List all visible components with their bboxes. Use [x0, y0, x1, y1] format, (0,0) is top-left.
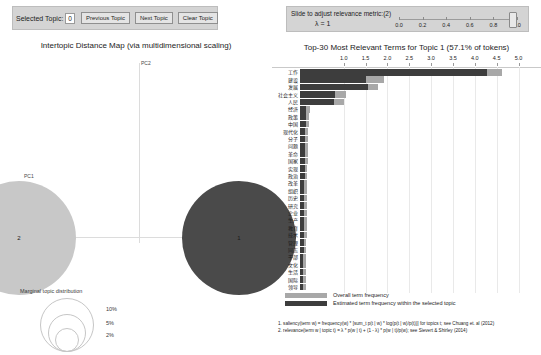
- bar-topic-frequency: [300, 128, 305, 135]
- bar-x-axis-ticks: 1.01.52.02.53.03.54.04.55.0: [272, 55, 541, 67]
- bar-term-label[interactable]: 国家: [288, 157, 300, 164]
- bar-topic-frequency: [300, 121, 306, 128]
- bar-term-label[interactable]: 文化: [288, 261, 300, 268]
- topic-circle-label-1: 1: [237, 235, 240, 241]
- bar-row[interactable]: 人民: [300, 99, 536, 106]
- bar-chart-legend: Overall term frequencyEstimated term fre…: [285, 292, 535, 308]
- bar-term-label[interactable]: 研究: [288, 202, 300, 209]
- bar-row[interactable]: 同志: [300, 247, 536, 254]
- bar-row[interactable]: 历史: [300, 195, 536, 202]
- bar-row[interactable]: 文化: [300, 261, 536, 268]
- bar-row[interactable]: 管理: [300, 239, 536, 246]
- footnote-relevance: 2. relevance(term w | topic t) = λ * p(w…: [278, 327, 540, 334]
- bar-x-tick-label: 4.5: [493, 55, 501, 61]
- bar-term-label[interactable]: 管理: [288, 239, 300, 246]
- bar-term-label[interactable]: 国际: [288, 276, 300, 283]
- bar-term-label[interactable]: 生产: [288, 216, 300, 223]
- bar-topic-frequency: [300, 217, 304, 224]
- bar-row[interactable]: 生活: [300, 269, 536, 276]
- bar-row[interactable]: 改革: [300, 180, 536, 187]
- bar-topic-frequency: [300, 210, 304, 217]
- footnote-saliency: 1. saliency(term w) = frequency(w) * [su…: [278, 320, 540, 327]
- mds-pc1-label: PC1: [24, 173, 34, 179]
- bar-topic-frequency: [300, 69, 487, 76]
- bar-term-label[interactable]: 分子: [288, 135, 300, 142]
- bar-row[interactable]: 国际: [300, 276, 536, 283]
- bar-row[interactable]: 中国: [300, 121, 536, 128]
- bar-row[interactable]: 企业: [300, 210, 536, 217]
- slider-tick-label: 0.2: [419, 22, 427, 28]
- bar-row[interactable]: 革命: [300, 150, 536, 157]
- bar-term-label[interactable]: 中国: [288, 120, 300, 127]
- marginal-circle-label: 10%: [106, 306, 117, 312]
- clear-topic-button[interactable]: Clear Topic: [178, 12, 218, 24]
- bar-term-label[interactable]: 历史: [288, 194, 300, 201]
- slider-tick-label: 0.6: [466, 22, 474, 28]
- bar-term-label[interactable]: 领导: [288, 283, 300, 290]
- bar-x-tick-label: 3.5: [449, 55, 457, 61]
- bar-term-label[interactable]: 经济: [288, 105, 300, 112]
- topic-circle-2[interactable]: [0, 181, 76, 295]
- bar-topic-frequency: [300, 224, 304, 231]
- bar-term-label[interactable]: 政治: [288, 172, 300, 179]
- slider-tick: [493, 17, 494, 20]
- bar-topic-frequency: [300, 99, 334, 106]
- bar-term-label[interactable]: 现代化: [283, 128, 300, 135]
- bar-topic-frequency: [300, 195, 304, 202]
- bar-row[interactable]: 建设: [300, 76, 536, 83]
- bar-row[interactable]: 经济: [300, 106, 536, 113]
- bar-term-label[interactable]: 干部: [288, 253, 300, 260]
- next-topic-button[interactable]: Next Topic: [135, 12, 173, 24]
- bar-topic-frequency: [300, 84, 368, 91]
- bar-term-label[interactable]: 实现: [288, 165, 300, 172]
- bar-term-label[interactable]: 革命: [288, 150, 300, 157]
- bar-term-label[interactable]: 技术: [288, 231, 300, 238]
- bar-term-label[interactable]: 工作: [288, 68, 300, 75]
- marginal-legend-title: Marginal topic distribution: [20, 288, 82, 294]
- bar-term-label[interactable]: 发展: [288, 83, 300, 90]
- bar-row[interactable]: 生产: [300, 217, 536, 224]
- bar-term-label[interactable]: 政策: [288, 113, 300, 120]
- bar-topic-frequency: [300, 187, 304, 194]
- bar-row[interactable]: 分子: [300, 136, 536, 143]
- bar-term-label[interactable]: 同志: [288, 246, 300, 253]
- slider-handle[interactable]: [509, 12, 517, 28]
- bar-row[interactable]: 问题: [300, 143, 536, 150]
- bar-row[interactable]: 领导: [300, 284, 536, 291]
- bar-row[interactable]: 组织: [300, 187, 536, 194]
- bar-topic-frequency: [300, 254, 303, 261]
- bar-row[interactable]: 教育: [300, 224, 536, 231]
- bar-row[interactable]: 社会主义: [300, 91, 536, 98]
- legend-row: Overall term frequency: [285, 292, 535, 298]
- bar-row[interactable]: 政策: [300, 113, 536, 120]
- slider-tick-label: 0.0: [395, 22, 403, 28]
- bar-row[interactable]: 工作: [300, 69, 536, 76]
- bar-topic-frequency: [300, 165, 305, 172]
- bar-x-tick-label: 4.0: [471, 55, 479, 61]
- lambda-value-label: λ = 1: [315, 20, 330, 27]
- bar-row[interactable]: 政治: [300, 173, 536, 180]
- previous-topic-button[interactable]: Previous Topic: [81, 12, 130, 24]
- bar-row[interactable]: 干部: [300, 254, 536, 261]
- bar-term-label[interactable]: 建设: [288, 76, 300, 83]
- bar-topic-frequency: [300, 150, 305, 157]
- bar-term-label[interactable]: 教育: [288, 224, 300, 231]
- bar-term-label[interactable]: 企业: [288, 209, 300, 216]
- bar-topic-frequency: [300, 173, 305, 180]
- selected-topic-input[interactable]: 0: [65, 13, 75, 24]
- bar-term-label[interactable]: 生活: [288, 268, 300, 275]
- bar-row[interactable]: 实现: [300, 165, 536, 172]
- slider-tick: [517, 17, 518, 20]
- bar-term-label[interactable]: 问题: [288, 142, 300, 149]
- bar-row[interactable]: 技术: [300, 232, 536, 239]
- bar-row[interactable]: 国家: [300, 158, 536, 165]
- bar-row[interactable]: 现代化: [300, 128, 536, 135]
- bar-row[interactable]: 研究: [300, 202, 536, 209]
- bar-topic-frequency: [300, 276, 303, 283]
- bar-row[interactable]: 发展: [300, 84, 536, 91]
- bar-term-label[interactable]: 社会主义: [278, 91, 300, 98]
- bar-term-label[interactable]: 人民: [288, 98, 300, 105]
- bar-term-label[interactable]: 改革: [288, 179, 300, 186]
- bar-topic-frequency: [300, 143, 305, 150]
- bar-term-label[interactable]: 组织: [288, 187, 300, 194]
